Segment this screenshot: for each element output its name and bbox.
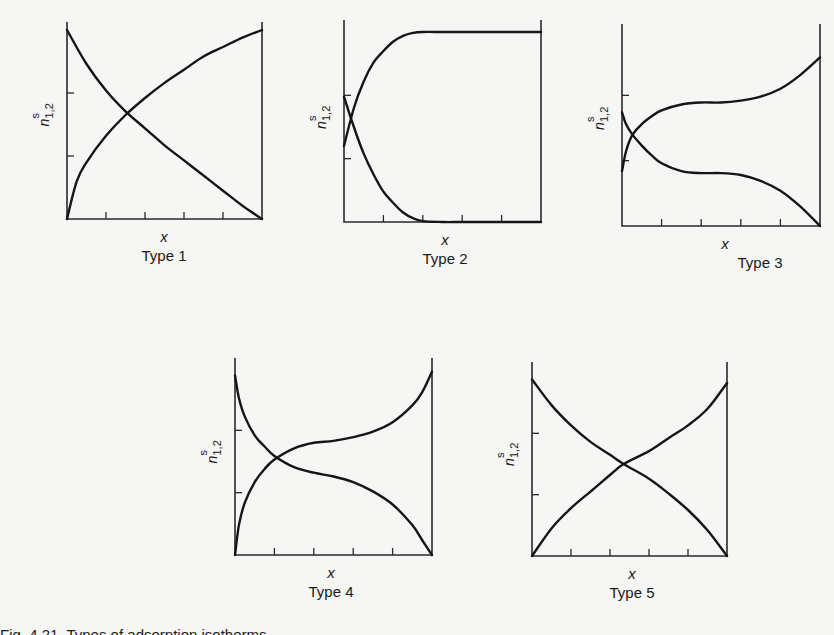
x-axis-label: x [720,235,729,252]
svg-text:1,2: 1,2 [211,440,223,455]
panel-title: Type 1 [141,247,186,264]
axes-frame [344,20,541,222]
svg-text:n: n [313,121,329,129]
panel-title: Type 3 [737,254,782,271]
panel-title: Type 4 [308,583,353,600]
curve-n1-decreasing [67,30,262,219]
y-axis-label: ns1,2 [306,106,332,129]
svg-text:s: s [494,452,506,458]
x-axis-label: x [440,231,449,248]
y-axis-label: ns1,2 [197,440,223,463]
curve-n1-decreasing [344,97,541,222]
y-axis-label: ns1,2 [494,443,520,466]
curve-n2-increasing [235,372,432,555]
svg-text:1,2: 1,2 [598,107,610,122]
curve-n1-decreasing [532,379,727,556]
svg-text:1,2: 1,2 [43,103,55,118]
x-axis-label: x [326,564,335,581]
figure-caption: Fig. 4.21. Types of adsorption isotherms [0,624,834,635]
curve-n2-increasing [344,32,541,146]
x-axis-label: x [159,228,168,245]
svg-text:s: s [197,450,209,456]
panel-type-1: xType 1ns1,2 [29,22,262,264]
figure-canvas: xType 1ns1,2xType 2ns1,2xType 3ns1,2xTyp… [0,0,834,635]
svg-text:n: n [36,119,52,127]
svg-text:s: s [584,116,596,122]
svg-text:s: s [306,115,318,121]
curve-n2-increasing [67,30,262,219]
panel-type-4: xType 4ns1,2 [197,358,432,600]
panel-type-5: xType 5ns1,2 [494,362,727,601]
svg-text:s: s [29,113,41,119]
axes-frame [622,24,820,226]
curve-n1-decreasing [622,112,820,226]
x-axis-label: x [627,565,636,582]
svg-text:n: n [204,456,220,464]
panel-type-2: xType 2ns1,2 [306,20,541,267]
panel-type-3: xType 3ns1,2 [584,24,820,271]
panel-title: Type 5 [609,584,654,601]
axes-frame [235,358,432,555]
svg-text:1,2: 1,2 [320,106,332,121]
curve-n1-decreasing [235,376,432,556]
y-axis-label: ns1,2 [29,103,55,126]
axes-frame [532,362,727,556]
svg-text:n: n [501,458,517,466]
y-axis-label: ns1,2 [584,107,610,130]
axes-frame [67,22,262,219]
svg-text:n: n [591,122,607,130]
svg-text:1,2: 1,2 [508,443,520,458]
curve-n2-increasing [532,383,727,556]
panel-title: Type 2 [422,250,467,267]
